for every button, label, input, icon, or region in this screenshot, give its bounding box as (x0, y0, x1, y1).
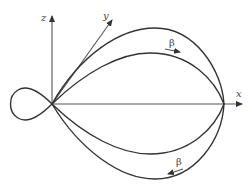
lobe-diagram: x y z β β (0, 0, 250, 190)
upper-beta-label: β (169, 37, 175, 48)
lower-beta-label: β (176, 156, 182, 167)
y-axis (52, 20, 112, 104)
back-lobe (11, 88, 53, 120)
outer-lower-lobe (52, 104, 224, 179)
outer-upper-lobe (52, 28, 224, 104)
y-axis-label: y (102, 10, 109, 21)
z-axis-label: z (40, 12, 47, 23)
inner-lower-lobe (52, 104, 224, 154)
inner-upper-lobe (52, 53, 224, 104)
x-axis-label: x (236, 88, 242, 99)
upper-beta-arrow (165, 49, 180, 52)
